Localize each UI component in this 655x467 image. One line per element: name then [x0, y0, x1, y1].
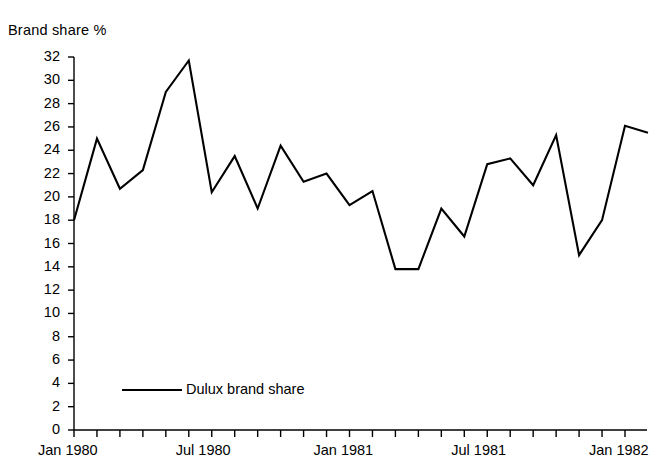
chart-container: Brand share % 02468101214161820222426283…: [0, 0, 655, 467]
y-axis-tick-label: 30: [30, 71, 60, 87]
y-axis-tick-label: 2: [30, 398, 60, 414]
y-axis-tick-label: 22: [30, 165, 60, 181]
chart-plot-area: [0, 0, 655, 467]
y-axis-tick-label: 32: [30, 48, 60, 64]
legend-entry-label: Dulux brand share: [186, 381, 305, 397]
y-axis-tick-label: 4: [30, 374, 60, 390]
y-axis-tick-label: 20: [30, 188, 60, 204]
y-axis-tick-label: 8: [30, 328, 60, 344]
y-axis-tick-label: 12: [30, 281, 60, 297]
y-axis-tick-label: 26: [30, 118, 60, 134]
y-axis-tick-label: 6: [30, 351, 60, 367]
y-axis-tick-label: 0: [30, 421, 60, 437]
x-axis-tick-label: Jan 1981: [314, 442, 374, 458]
x-axis-tick-label: Jan 1980: [38, 442, 98, 458]
y-axis-tick-label: 18: [30, 211, 60, 227]
y-axis-tick-label: 28: [30, 95, 60, 111]
x-axis-tick-label: Jul 1981: [451, 442, 506, 458]
chart-axes: [68, 57, 647, 437]
chart-series-lines: [74, 60, 648, 269]
y-axis-tick-label: 14: [30, 258, 60, 274]
x-axis-tick-label: Jul 1980: [176, 442, 231, 458]
x-axis-tick-label: Jan 1982: [589, 442, 649, 458]
y-axis-tick-label: 16: [30, 235, 60, 251]
y-axis-tick-label: 10: [30, 304, 60, 320]
y-axis-tick-label: 24: [30, 141, 60, 157]
